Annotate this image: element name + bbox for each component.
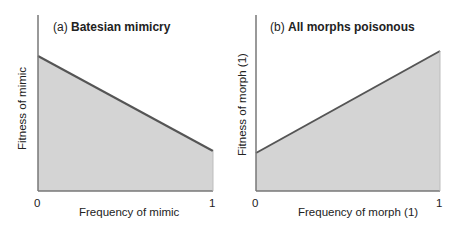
panel-b-title: (b) All morphs poisonous <box>270 20 415 34</box>
panel-a-title-prefix: (a) <box>53 20 68 34</box>
panel-a-x-tick-0: 0 <box>34 197 40 209</box>
panel-b-title-text: All morphs poisonous <box>288 20 415 34</box>
panel-a-title: (a) Batesian mimicry <box>53 20 170 34</box>
panel-b-title-prefix: (b) <box>270 20 285 34</box>
panel-b-filled-area <box>256 51 440 191</box>
panel-b-x-axis-label: Frequency of morph (1) <box>298 206 418 218</box>
panel-a-title-text: Batesian mimicry <box>71 20 170 34</box>
panel-a-x-axis-label: Frequency of mimic <box>79 206 179 218</box>
panel-b-x-tick-0: 0 <box>252 197 258 209</box>
panel-a-filled-area <box>38 56 213 191</box>
panel-a-x-tick-1: 1 <box>209 197 215 209</box>
panel-b-x-tick-1: 1 <box>436 197 442 209</box>
panel-b-y-axis-label: Fitness of morph (1) <box>236 53 248 156</box>
panel-a-y-axis-label: Fitness of mimic <box>16 67 28 150</box>
chart-panel-a-plot <box>0 0 454 232</box>
